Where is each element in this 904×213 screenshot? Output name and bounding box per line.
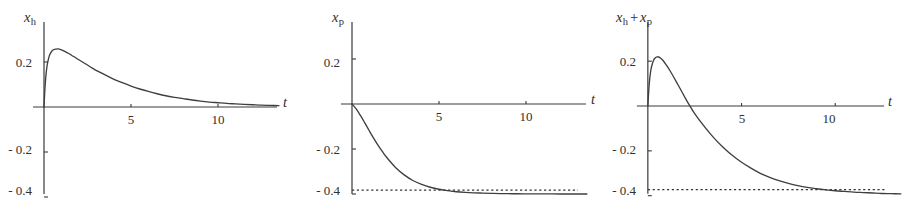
plot-svg-xp — [301, 0, 602, 213]
xtick-label-1: 10 — [816, 112, 842, 125]
plot-panel-xh-plus-xp: xh+xp 0.2 - 0.2 - 0.4 5 10 t — [602, 0, 903, 213]
ytick-label-0: 0.2 — [0, 56, 32, 69]
ytick-label-1: - 0.2 — [0, 143, 32, 156]
y-axis-title-xp: xp — [332, 10, 344, 27]
data-curve-xh — [44, 49, 279, 107]
plot-svg-xh — [0, 0, 301, 213]
x-axis-title-t: t — [888, 94, 892, 109]
ytick-label-2: - 0.4 — [0, 184, 32, 197]
x-axis-title-t: t — [591, 92, 595, 107]
ytick-label-2: - 0.4 — [300, 184, 340, 197]
plot-panel-xh: xh 0.2 - 0.2 - 0.4 5 10 t — [0, 0, 301, 213]
xtick-label-1: 10 — [513, 110, 539, 123]
axis-ticks — [352, 59, 526, 194]
axes-sum — [637, 22, 884, 195]
x-axis-title-t: t — [283, 95, 287, 110]
ytick-label-2: - 0.4 — [596, 184, 636, 197]
ytick-label-0: 0.2 — [306, 56, 340, 69]
axis-ticks — [44, 62, 218, 197]
y-axis-title-sum: xh+xp — [616, 10, 652, 27]
plot-svg-xh-plus-xp — [602, 0, 903, 213]
xtick-label-0: 5 — [732, 112, 752, 125]
xtick-label-0: 5 — [429, 110, 449, 123]
data-curve-xp — [352, 104, 587, 194]
xtick-label-0: 5 — [121, 113, 141, 126]
axes-xh — [33, 22, 277, 197]
figure-container: xh 0.2 - 0.2 - 0.4 5 10 t xp 0.2 - 0.2 -… — [0, 0, 904, 213]
ytick-label-1: - 0.2 — [300, 143, 340, 156]
plot-panel-xp: xp 0.2 - 0.2 - 0.4 5 10 t — [301, 0, 602, 213]
data-curve-sum — [648, 57, 901, 194]
axes-xp — [341, 22, 586, 194]
ytick-label-0: 0.2 — [602, 55, 636, 68]
y-axis-title-xh: xh — [24, 10, 36, 27]
xtick-label-1: 10 — [205, 113, 231, 126]
ytick-label-1: - 0.2 — [596, 143, 636, 156]
